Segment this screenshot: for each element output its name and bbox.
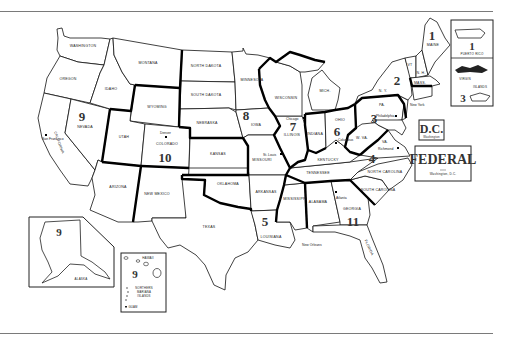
label-guam: GUAM: [128, 305, 138, 309]
label-michigan: MICH.: [319, 89, 330, 93]
label-iowa: IOWA: [251, 123, 262, 127]
state-florida[interactable]: [313, 225, 387, 283]
label-louisiana: LOUISIANA: [261, 235, 282, 239]
label-atlanta: Atlanta: [336, 196, 347, 200]
city-dot-st-louis: [280, 153, 282, 155]
label-nebraska: NEBRASKA: [196, 121, 218, 125]
label-philadelphia: Philadelphia: [376, 114, 395, 118]
label-hawaii: HAWAII: [142, 256, 154, 260]
label-colorado: COLORADO: [156, 142, 178, 146]
label-islands-nmi: ISLANDS: [137, 294, 150, 298]
label-maine: MAINE: [427, 43, 440, 47]
label-islands: ISLANDS: [473, 85, 487, 89]
label-new-york-city: New York: [410, 103, 425, 107]
label-new-mexico: NEW MEXICO: [144, 192, 170, 196]
label-west-virginia: W. VA.: [356, 136, 368, 140]
label-south-dakota: SOUTH DAKOTA: [191, 93, 222, 97]
label-montana: MONTANA: [138, 61, 158, 65]
label-nevada: NEVADA: [77, 125, 93, 129]
dc-title: D.C.: [420, 122, 443, 136]
federal-title: FEDERAL: [410, 152, 477, 167]
label-pennsylvania: PA.: [379, 103, 385, 107]
label-wyoming: WYOMING: [147, 105, 166, 109]
city-dot-philadelphia: [395, 115, 397, 117]
label-arkansas: ARKANSAS: [255, 190, 277, 194]
label-virgin: VIRGIN: [459, 77, 471, 81]
label-san-francisco: San Francisco: [42, 137, 64, 141]
region-number-1: 1: [429, 28, 436, 43]
label-washington: WASHINGTON: [70, 44, 97, 48]
label-missouri: MISSOURI: [252, 158, 271, 162]
label-new-orleans: New Orleans: [302, 243, 322, 247]
label-idaho: IDAHO: [105, 87, 117, 91]
label-georgia: GEORGIA: [343, 207, 362, 211]
federal-subtitle: Washington, D.C.: [430, 172, 457, 176]
city-dot-denver: [165, 136, 167, 138]
label-minnesota: MINNESOTA: [241, 78, 264, 82]
region-number-11: 11: [347, 214, 359, 229]
label-alaska: ALASKA: [75, 277, 88, 281]
region-number-7: 7: [290, 119, 297, 134]
city-dot-atlanta: [335, 191, 337, 193]
city-dot-columbus: [335, 142, 337, 144]
label-south-carolina: SOUTH CAROLINA: [361, 188, 396, 192]
label-oregon: OREGON: [59, 77, 76, 81]
region-number-6: 6: [334, 124, 341, 139]
region-number-4: 4: [369, 151, 376, 166]
label-mississippi: MISSISSIPPI: [283, 197, 307, 201]
region-number-9-ak: 9: [56, 226, 62, 238]
label-st-louis: St. Louis: [263, 153, 276, 157]
label-vermont: VT: [408, 63, 414, 67]
label-richmond: Richmond: [378, 147, 393, 151]
city-dot-chicago: [303, 117, 305, 119]
label-kansas: KANSAS: [210, 152, 226, 156]
region-number-2: 2: [394, 73, 401, 88]
label-texas: TEXAS: [203, 225, 216, 229]
label-arizona: ARIZONA: [109, 185, 127, 189]
city-dot-richmond: [397, 147, 399, 149]
region-number-5: 5: [262, 214, 269, 229]
label-wisconsin: WISCONSIN: [275, 96, 298, 100]
inset-hawaii: HAWAII 9 NORTHERN MARIANA ISLANDS GUAM: [121, 253, 166, 312]
inset-alaska: 9 ALASKA: [29, 217, 114, 287]
label-denver: Denver: [160, 131, 172, 135]
inset-dc: D.C. Washington: [419, 120, 444, 140]
city-dot-san-francisco: [45, 134, 47, 136]
label-columbus: Columbus: [338, 138, 354, 142]
region-number-3: 3: [371, 111, 378, 126]
label-virginia: VA.: [382, 140, 388, 144]
label-tennessee: TENNESSEE: [306, 171, 330, 175]
label-massachusetts: MASS.: [414, 81, 426, 85]
label-utah: UTAH: [119, 135, 130, 139]
label-indiana: INDIANA: [307, 132, 323, 136]
region-number-9-hi: 9: [132, 268, 138, 280]
label-ohio: OHIO: [335, 118, 345, 122]
dc-subtitle: Washington: [423, 135, 440, 139]
region-number-10: 10: [159, 150, 172, 165]
label-kentucky: KENTUCKY: [317, 158, 339, 162]
label-oklahoma: OKLAHOMA: [217, 182, 239, 186]
region-number-8: 8: [243, 108, 250, 123]
region-number-3-vi: 3: [460, 92, 466, 104]
region-number-1-pr: 1: [469, 40, 475, 52]
us-federal-regions-map: WASHINGTON OREGON CALIFORNIA NEVADA IDAH…: [0, 0, 517, 339]
puerto-rico-shape: [455, 29, 485, 38]
label-north-carolina: NORTH CAROLINA: [368, 170, 403, 174]
label-alabama: ALABAMA: [309, 200, 328, 204]
label-puerto-rico: PUERTO RICO: [461, 52, 484, 56]
label-new-york: N. Y.: [379, 89, 387, 93]
label-north-dakota: NORTH DAKOTA: [191, 64, 222, 68]
inset-puerto-rico-virgin-islands: 1 PUERTO RICO VIRGIN ISLANDS 3: [451, 20, 493, 106]
region-number-9: 9: [79, 109, 86, 124]
inset-federal: FEDERAL Washington, D.C.: [410, 146, 477, 181]
state-connecticut-rhode-island[interactable]: [412, 86, 432, 100]
hawaii-box: [121, 253, 166, 312]
label-new-hampshire: N. H.: [416, 71, 425, 75]
